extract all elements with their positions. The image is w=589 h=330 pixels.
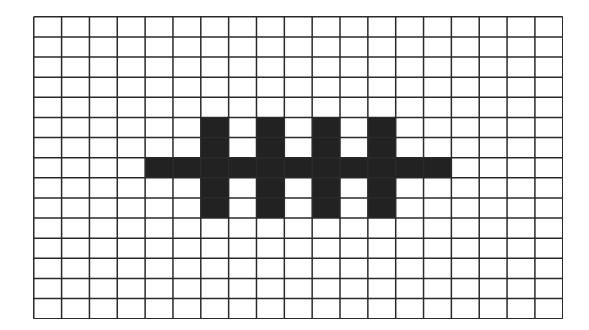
grid-cell-empty xyxy=(312,218,340,238)
grid-cell-empty xyxy=(117,178,145,198)
grid-cell-empty xyxy=(451,278,479,298)
grid-cell-empty xyxy=(535,238,563,258)
grid-cell-empty xyxy=(173,97,201,117)
grid-cell-empty xyxy=(424,198,452,218)
grid-cell-empty xyxy=(62,198,90,218)
grid-cell-empty xyxy=(284,299,312,319)
grid-cell-empty xyxy=(117,198,145,218)
grid-cell-empty xyxy=(89,117,117,137)
grid-cell-empty xyxy=(424,278,452,298)
grid-cell-empty xyxy=(145,77,173,97)
grid-cell-empty xyxy=(535,258,563,278)
grid-cell-empty xyxy=(173,77,201,97)
grid-cell-filled xyxy=(312,178,340,198)
grid-cell-empty xyxy=(117,158,145,178)
grid-cell-empty xyxy=(201,37,229,57)
grid-cell-empty xyxy=(62,117,90,137)
grid-cell-filled xyxy=(340,158,368,178)
grid-cell-empty xyxy=(34,198,62,218)
grid-cell-empty xyxy=(479,117,507,137)
grid-cell-empty xyxy=(479,17,507,37)
grid-cell-empty xyxy=(62,17,90,37)
grid-cell-empty xyxy=(284,258,312,278)
grid-cell-empty xyxy=(229,17,257,37)
grid-cell-empty xyxy=(312,299,340,319)
grid-cell-empty xyxy=(340,299,368,319)
grid-cell-empty xyxy=(340,198,368,218)
grid-cell-empty xyxy=(424,57,452,77)
grid-cell-empty xyxy=(62,258,90,278)
grid-cell-filled xyxy=(173,158,201,178)
grid-cell-empty xyxy=(340,97,368,117)
grid-cell-empty xyxy=(507,57,535,77)
grid-cell-filled xyxy=(256,178,284,198)
grid-cell-empty xyxy=(173,37,201,57)
grid-cell-empty xyxy=(256,97,284,117)
grid-cell-filled xyxy=(256,198,284,218)
grid-cell-empty xyxy=(145,57,173,77)
grid-cell-empty xyxy=(396,57,424,77)
grid-cell-empty xyxy=(451,158,479,178)
grid-cell-empty xyxy=(535,299,563,319)
grid-cell-empty xyxy=(424,37,452,57)
grid-cell-empty xyxy=(284,37,312,57)
grid-cell-empty xyxy=(396,258,424,278)
grid-cell-empty xyxy=(396,37,424,57)
grid-cell-empty xyxy=(340,57,368,77)
grid-cell-empty xyxy=(424,77,452,97)
grid-cell-empty xyxy=(229,97,257,117)
grid-cell-empty xyxy=(396,198,424,218)
grid-cell-empty xyxy=(117,238,145,258)
grid-cell-empty xyxy=(507,117,535,137)
grid-cell-empty xyxy=(201,77,229,97)
grid-cell-empty xyxy=(312,57,340,77)
grid-cell-empty xyxy=(451,97,479,117)
grid-cell-empty xyxy=(535,198,563,218)
grid-cell-empty xyxy=(368,57,396,77)
grid-cell-empty xyxy=(284,97,312,117)
grid-cell-empty xyxy=(173,57,201,77)
grid-cell-empty xyxy=(89,17,117,37)
grid-cell-empty xyxy=(173,198,201,218)
grid-cell-empty xyxy=(89,138,117,158)
grid-cell-empty xyxy=(507,138,535,158)
grid-cell-empty xyxy=(396,97,424,117)
grid-cell-empty xyxy=(201,258,229,278)
grid-cell-empty xyxy=(368,299,396,319)
grid-cell-empty xyxy=(479,299,507,319)
grid-cell-empty xyxy=(229,117,257,137)
grid-cell-empty xyxy=(117,57,145,77)
grid-cell-empty xyxy=(535,178,563,198)
grid-cell-empty xyxy=(145,138,173,158)
pixel-grid-canvas xyxy=(33,16,563,319)
grid-cell-empty xyxy=(451,238,479,258)
grid-cell-empty xyxy=(62,57,90,77)
grid-cell-empty xyxy=(368,77,396,97)
grid-cell-filled xyxy=(256,117,284,137)
grid-cell-empty xyxy=(312,278,340,298)
grid-cell-empty xyxy=(117,77,145,97)
grid-cell-empty xyxy=(173,117,201,137)
grid-cell-filled xyxy=(201,158,229,178)
grid-cell-empty xyxy=(145,198,173,218)
grid-cell-empty xyxy=(89,238,117,258)
grid-cell-empty xyxy=(145,37,173,57)
grid-cell-empty xyxy=(89,278,117,298)
grid-cell-filled xyxy=(229,158,257,178)
grid-cell-filled xyxy=(201,138,229,158)
grid-cell-empty xyxy=(201,218,229,238)
grid-cell-empty xyxy=(145,238,173,258)
grid-cell-empty xyxy=(34,138,62,158)
grid-cell-empty xyxy=(145,258,173,278)
grid-cell-empty xyxy=(256,218,284,238)
grid-cell-empty xyxy=(117,37,145,57)
grid-cell-empty xyxy=(145,178,173,198)
grid-cell-empty xyxy=(368,278,396,298)
grid-cell-empty xyxy=(62,278,90,298)
grid-cell-empty xyxy=(368,238,396,258)
grid-cell-empty xyxy=(284,77,312,97)
grid-cell-empty xyxy=(368,258,396,278)
grid-cell-empty xyxy=(535,37,563,57)
grid-cell-empty xyxy=(479,238,507,258)
grid-cell-empty xyxy=(479,77,507,97)
